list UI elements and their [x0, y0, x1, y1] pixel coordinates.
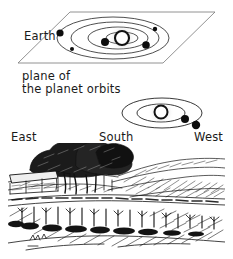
foreground-contours	[8, 236, 225, 250]
label-earth: Earth	[24, 30, 56, 43]
planet-dot	[101, 38, 109, 46]
sun-symbol	[115, 31, 129, 45]
label-plane-line-2: the planet orbits	[22, 83, 121, 96]
label-plane-line-1: plane of	[22, 70, 121, 83]
planet-dot	[181, 115, 189, 123]
edge-on-orbit-diagram	[122, 98, 202, 129]
midground-dark-band	[12, 198, 218, 202]
planet-dot	[142, 41, 150, 49]
sun-symbol-2	[155, 106, 168, 119]
label-south: South	[99, 131, 133, 144]
tree-cluster	[30, 139, 134, 194]
planet-dot	[153, 27, 157, 31]
label-plane-of-the-planet-orbits: plane of the planet orbits	[22, 70, 121, 95]
planet-dot	[192, 121, 200, 129]
label-east: East	[11, 131, 37, 144]
label-west: West	[194, 131, 223, 144]
planet-earth-dot	[56, 29, 63, 36]
planet-dots	[56, 27, 157, 51]
planet-dot	[70, 47, 74, 51]
landscape-sketch	[8, 139, 225, 250]
